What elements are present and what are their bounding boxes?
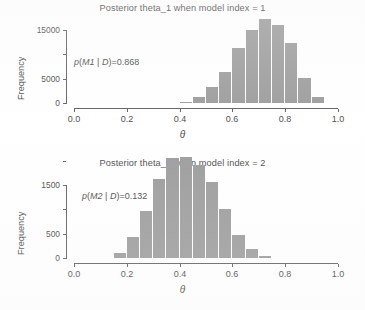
y-axis-tick [63, 258, 66, 259]
histogram-bar [114, 253, 126, 258]
chart-panel-theta-1: Posterior theta_1 when model index = 1 0… [0, 0, 365, 155]
histogram-bar [232, 235, 244, 258]
y-axis-tick [63, 30, 66, 31]
histogram-bar [193, 97, 205, 103]
x-axis-line [74, 263, 338, 264]
y-axis-tick [63, 161, 66, 162]
histogram-bar [219, 72, 231, 103]
x-axis-tick-label: 1.0 [318, 269, 358, 279]
y-axis-tick [63, 54, 66, 55]
y-axis-tick-label: 15000 [37, 25, 60, 35]
y-axis-tick-label: 0 [55, 98, 60, 108]
annotation-model: M2 [90, 191, 103, 201]
y-axis-title: Frequency [16, 212, 26, 255]
histogram-bar [206, 182, 218, 258]
histogram-bar [246, 30, 258, 103]
histogram-bar [140, 211, 152, 258]
histogram-bar [180, 102, 192, 103]
x-axis-tick-label: 0.4 [160, 269, 200, 279]
y-axis-tick [63, 209, 66, 210]
histogram-bar [259, 256, 271, 258]
y-axis-tick-label: 0 [55, 253, 60, 263]
chart-panel-theta-2: Posterior theta_2 when model index = 2 0… [0, 155, 365, 310]
x-axis-tick-label: 0.0 [54, 114, 94, 124]
y-axis-tick [63, 234, 66, 235]
histogram-bar [285, 43, 297, 103]
y-axis-tick-label: 500 [46, 229, 60, 239]
y-axis-tick-label: 1500 [41, 180, 60, 190]
y-axis-tick [63, 79, 66, 80]
x-axis-tick [338, 109, 339, 112]
x-axis-tick-label: 0.8 [265, 114, 305, 124]
y-axis-tick-label: 5000 [41, 74, 60, 84]
annotation-conditional-bar: | [103, 191, 110, 201]
annotation-model: M1 [82, 57, 95, 67]
x-axis-title: θ [0, 129, 365, 140]
histogram-bar [193, 165, 205, 258]
x-axis-tick-label: 0.6 [212, 269, 252, 279]
x-axis-tick [285, 109, 286, 112]
histogram-bar [166, 158, 178, 258]
x-axis-tick [180, 264, 181, 267]
x-axis-tick-label: 0.2 [107, 114, 147, 124]
y-axis-line [66, 30, 67, 104]
y-axis-tick [63, 103, 66, 104]
x-axis-line [74, 108, 338, 109]
histogram-bar [298, 78, 310, 103]
histogram-bar [272, 25, 284, 103]
histogram-bar [206, 87, 218, 103]
y-axis-line [66, 185, 67, 259]
x-axis-tick-label: 0.4 [160, 114, 200, 124]
histogram-bar [153, 179, 165, 258]
histogram-bar [259, 19, 271, 103]
histogram-bar [246, 249, 258, 258]
x-axis-tick-label: 0.0 [54, 269, 94, 279]
y-axis-title: Frequency [16, 57, 26, 100]
x-axis-tick [232, 109, 233, 112]
x-axis-tick [127, 109, 128, 112]
figure-canvas: Posterior theta_1 when model index = 1 0… [0, 0, 365, 310]
x-axis-tick [232, 264, 233, 267]
x-axis-tick [74, 264, 75, 267]
histogram-bar [127, 237, 139, 258]
histogram-bar [180, 157, 192, 258]
posterior-probability-annotation: p(M1 | D)=0.868 [74, 57, 139, 67]
x-axis-tick [74, 109, 75, 112]
x-axis-tick-label: 0.2 [107, 269, 147, 279]
x-axis-title: θ [0, 284, 365, 295]
annotation-value: 0.132 [125, 191, 148, 201]
x-axis-tick [285, 264, 286, 267]
histogram-bar [232, 48, 244, 103]
y-axis-tick [63, 185, 66, 186]
x-axis-tick [338, 264, 339, 267]
posterior-probability-annotation: p(M2 | D)=0.132 [82, 191, 147, 201]
annotation-value: 0.868 [117, 57, 140, 67]
histogram-bar [219, 209, 231, 258]
annotation-conditional-bar: | [95, 57, 102, 67]
x-axis-tick-label: 0.6 [212, 114, 252, 124]
histogram-bar [312, 97, 324, 103]
x-axis-tick [127, 264, 128, 267]
x-axis-tick-label: 1.0 [318, 114, 358, 124]
x-axis-tick [180, 109, 181, 112]
x-axis-tick-label: 0.8 [265, 269, 305, 279]
